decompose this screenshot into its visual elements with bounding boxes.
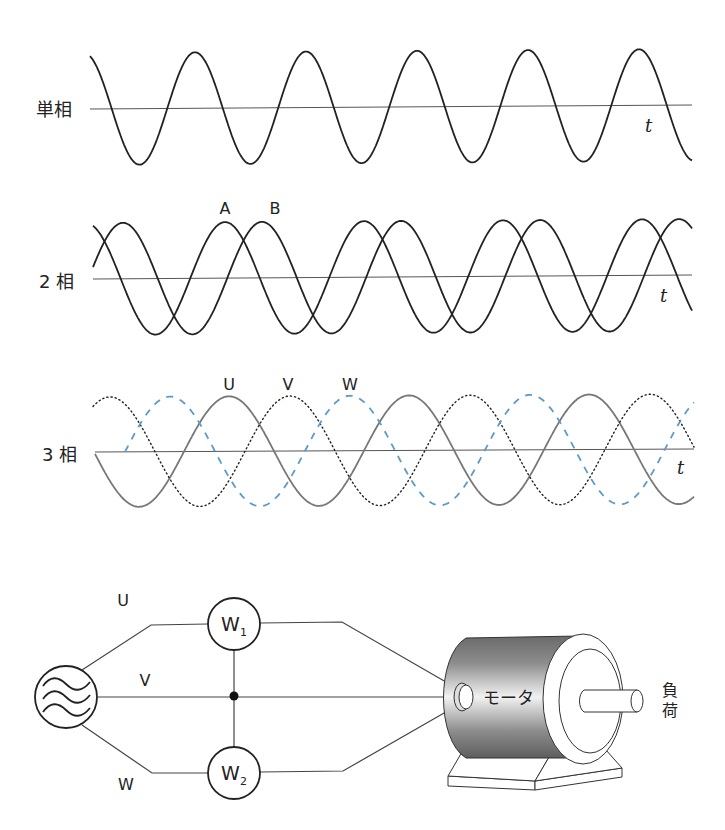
line-u-wire: [82, 624, 208, 670]
phase-v-label: V: [283, 375, 294, 394]
time-axis: [93, 275, 692, 279]
two-phase-panel: 2 相 A B t: [39, 199, 692, 335]
wattmeter-1: W 1: [208, 598, 260, 650]
wattmeter-1-letter: W: [221, 613, 240, 635]
ac-phase-diagram: 単相 t 2 相 A B t 3 相 U V W t: [0, 0, 725, 830]
phase-a-label: A: [220, 199, 231, 218]
time-axis: [90, 105, 692, 109]
time-axis-label: t: [645, 115, 653, 136]
wattmeter-1-sub: 1: [240, 626, 247, 639]
wattmeter-2-sub: 2: [240, 775, 247, 788]
ac-source-icon: [35, 666, 97, 728]
three-phase-label: 3 相: [42, 444, 77, 465]
phase-w-label: W: [342, 375, 358, 394]
motor-label: モータ: [483, 688, 534, 708]
single-phase-panel: 単相 t: [36, 49, 692, 164]
load-label-1: 負: [662, 681, 678, 700]
line-w-wire-motor: [260, 701, 465, 772]
time-axis-label: t: [677, 457, 685, 478]
wattmeter-2: W 2: [208, 747, 260, 799]
junction-dot: [230, 692, 239, 701]
wattmeter-circuit: W 1 W 2 U V W: [35, 591, 466, 799]
two-phase-label: 2 相: [39, 271, 74, 292]
wattmeter-2-letter: W: [221, 762, 240, 784]
single-phase-label: 単相: [36, 99, 72, 120]
phase-u-label: U: [223, 375, 235, 394]
line-w-wire: [82, 725, 208, 773]
line-u-wire-motor: [260, 622, 465, 693]
line-w-label: W: [118, 775, 134, 794]
phase-b-label: B: [270, 199, 281, 218]
time-axis-label: t: [660, 285, 668, 306]
line-u-label: U: [117, 591, 129, 610]
line-v-label: V: [140, 671, 151, 690]
load-label-2: 荷: [662, 701, 678, 720]
motor-icon: モータ: [444, 634, 644, 790]
three-phase-panel: 3 相 U V W t: [42, 375, 694, 507]
